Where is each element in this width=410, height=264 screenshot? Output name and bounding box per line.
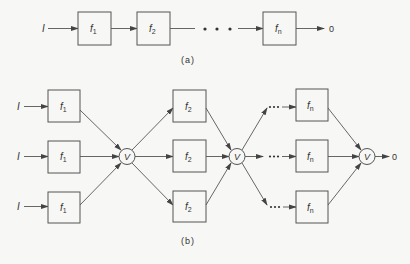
input-label: I bbox=[42, 23, 45, 34]
voter-1: V bbox=[119, 149, 135, 165]
input-label-1: I bbox=[17, 101, 20, 112]
figure-a-series-chain: I f1 f2 fn 0 (a) bbox=[42, 12, 334, 65]
ellipsis-dots bbox=[269, 106, 280, 208]
inputs: I I I bbox=[17, 101, 48, 212]
block-f1: f1 bbox=[78, 12, 111, 45]
input-label-3: I bbox=[17, 201, 20, 212]
stage-f2: f2 f2 f2 bbox=[173, 90, 206, 222]
figure-b-redundant-chain: I I I f1 f1 f1 V bbox=[17, 89, 397, 246]
output-label: 0 bbox=[329, 24, 334, 34]
voter-3: V bbox=[359, 149, 375, 165]
svg-text:V: V bbox=[234, 152, 241, 162]
stage-f1: f1 f1 f1 bbox=[48, 90, 80, 223]
svg-text:V: V bbox=[364, 152, 371, 162]
caption-b: (b) bbox=[181, 236, 195, 246]
block-f2: f2 bbox=[137, 12, 170, 45]
block-fn: fn bbox=[263, 12, 296, 45]
input-label-2: I bbox=[17, 151, 20, 162]
svg-text:V: V bbox=[124, 152, 131, 162]
stage-fn: fn fn fn bbox=[296, 89, 328, 223]
ellipsis-dots bbox=[203, 27, 231, 30]
output-label: 0 bbox=[392, 152, 397, 162]
redundancy-diagram: I f1 f2 fn 0 (a) I I bbox=[0, 0, 410, 264]
voter-2: V bbox=[229, 149, 245, 165]
caption-a: (a) bbox=[181, 55, 195, 65]
